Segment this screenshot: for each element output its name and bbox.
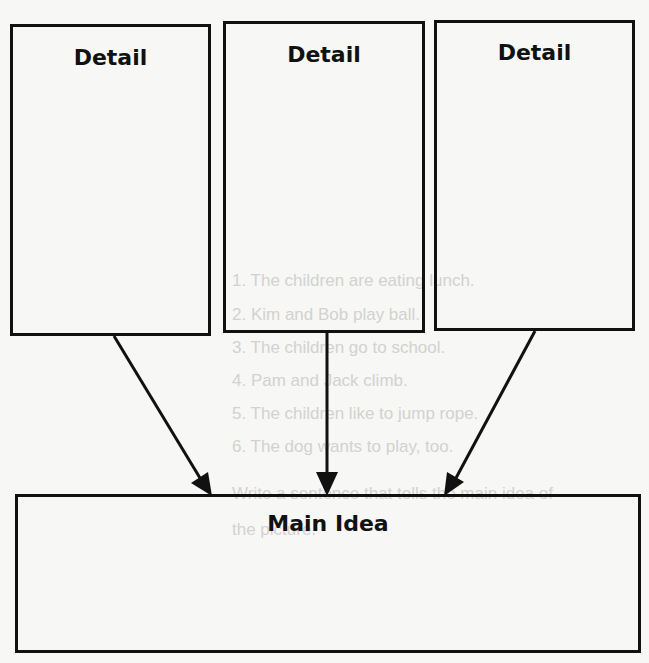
arrow-line-3 xyxy=(456,331,535,478)
arrowhead-icon xyxy=(444,472,464,496)
arrow-line-1 xyxy=(114,336,200,478)
main-idea-box: Main Idea xyxy=(15,494,641,653)
arrowhead-icon xyxy=(316,472,338,496)
main-idea-title: Main Idea xyxy=(18,511,638,536)
arrowhead-icon xyxy=(191,472,212,496)
